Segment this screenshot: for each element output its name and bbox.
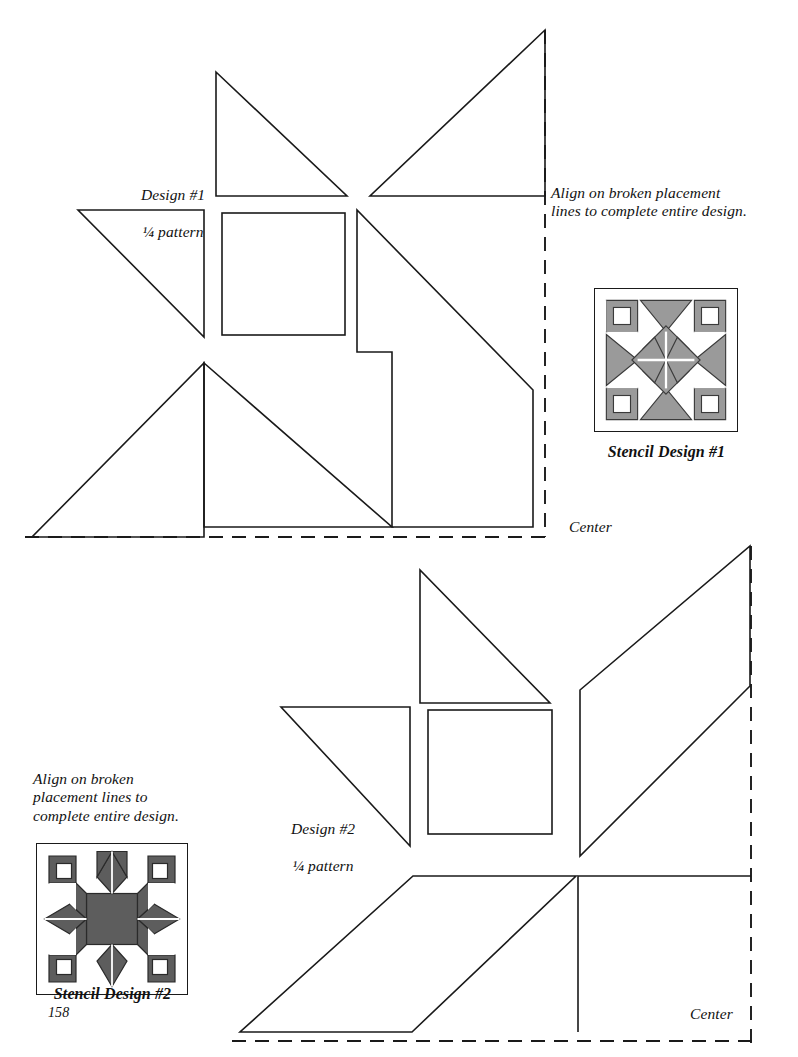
design-2-subtitle: ¼ pattern: [268, 857, 378, 875]
d2-center-square: [428, 710, 552, 834]
s2-corner-tr-inner: [153, 864, 168, 879]
stencil-2-artwork: [37, 844, 187, 994]
d1-triangle-bottom-left: [32, 363, 204, 537]
design-2-align-note: Align on broken placement lines to compl…: [33, 770, 213, 825]
s2-corner-tl-inner: [57, 864, 72, 879]
design-2-pattern-word: pattern: [304, 857, 353, 874]
s1-corner-br-inner: [702, 396, 719, 413]
stencil-1-artwork: [595, 289, 737, 431]
stencil-design-1-caption: Stencil Design #1: [564, 443, 769, 462]
s1-corner-bl-inner: [613, 396, 630, 413]
design-1-subtitle: ¼ pattern: [118, 223, 228, 241]
design-2-fraction: ¼: [292, 857, 304, 874]
d2-parallelogram-right: [580, 546, 750, 856]
d1-right-wedge: [357, 210, 533, 527]
d1-center-square: [222, 213, 345, 335]
design-1-center-label: Center: [569, 518, 612, 536]
stencil-design-1-image: [594, 288, 738, 432]
design-2-label: Design #2 ¼ pattern: [268, 802, 378, 893]
d1-triangle-bottom-middle: [204, 363, 392, 527]
pattern-page: Design #1 ¼ pattern Align on broken plac…: [0, 0, 798, 1057]
d2-parallelogram-bottom: [240, 876, 576, 1032]
design-1-title: Design #1: [118, 186, 228, 204]
s2-center-square: [87, 894, 138, 945]
design-2-title: Design #2: [268, 820, 378, 838]
s2-corner-br-inner: [153, 960, 168, 975]
page-number: 158: [48, 1005, 69, 1022]
design-1-align-note: Align on broken placement lines to compl…: [551, 184, 781, 221]
design-2-center-label: Center: [690, 1005, 733, 1023]
s1-corner-tl-inner: [613, 307, 630, 324]
design-1-pattern-word: pattern: [154, 223, 203, 240]
d2-triangle-upper: [420, 570, 550, 703]
d1-triangle-upper-left: [216, 72, 347, 196]
stencil-design-2-caption: Stencil Design #2: [10, 985, 215, 1004]
design-1-label: Design #1 ¼ pattern: [118, 168, 228, 259]
stencil-design-2-image: [36, 843, 188, 995]
design-1-fraction: ¼: [142, 223, 154, 240]
s2-corner-bl-inner: [57, 960, 72, 975]
s1-corner-tr-inner: [702, 307, 719, 324]
d1-triangle-upper-right: [370, 30, 545, 196]
